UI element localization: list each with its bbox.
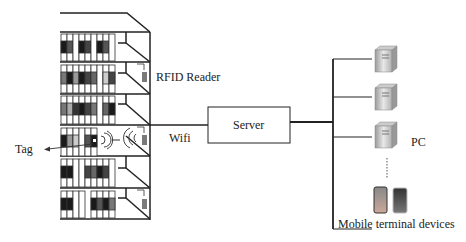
mobile-devices-label: Mobile terminal devices	[338, 217, 455, 232]
mobile-phone-icon	[393, 188, 407, 213]
pc-label: PC	[411, 135, 426, 150]
pc-icon	[375, 122, 397, 148]
server-label: Server	[233, 118, 264, 133]
rfid-reader-icon	[137, 190, 147, 209]
radio-wave-icon	[101, 128, 136, 149]
tag-label: Tag	[15, 142, 33, 157]
wifi-label: Wifi	[169, 131, 191, 146]
mobile-phone-icon	[374, 187, 387, 213]
rfid-reader-icon	[137, 64, 147, 82]
pc-icon	[375, 46, 397, 72]
pc-icon	[375, 84, 397, 110]
rfid-reader-label: RFID Reader	[156, 70, 220, 85]
rfid-reader-icon	[137, 127, 147, 145]
